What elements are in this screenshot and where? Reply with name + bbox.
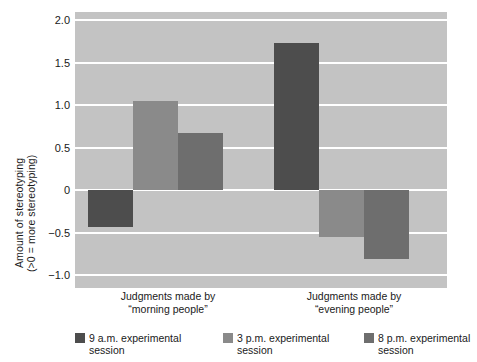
- gridline: [75, 62, 447, 64]
- legend-label-line-1: 8 p.m. experimental: [378, 332, 470, 344]
- y-axis-tick-labels: 2.01.51.00.50−0.5−1.0: [34, 0, 74, 300]
- gridline: [75, 19, 447, 21]
- chart-legend: 9 a.m. experimentalsession3 p.m. experim…: [75, 332, 475, 362]
- bar: [319, 190, 364, 237]
- legend-label-line-2: session: [237, 344, 329, 356]
- bar: [178, 133, 223, 191]
- category-label-line-1: Judgments made by: [121, 290, 216, 302]
- y-axis-title: Amount of stereotyping (>0 = more stereo…: [0, 0, 34, 300]
- bar: [133, 101, 178, 190]
- y-axis-tick-label: 2.0: [55, 14, 70, 26]
- y-axis-tick-label: 1.0: [55, 99, 70, 111]
- plot-area: [75, 12, 447, 288]
- legend-label: 3 p.m. experimentalsession: [237, 332, 329, 356]
- legend-label-line-1: 9 a.m. experimental: [89, 332, 181, 344]
- legend-label: 8 p.m. experimentalsession: [378, 332, 470, 356]
- y-axis-tick-label: 1.5: [55, 57, 70, 69]
- category-label-line-1: Judgments made by: [307, 290, 402, 302]
- y-axis-tick-label: −1.0: [48, 269, 70, 281]
- legend-color-swatch: [75, 333, 85, 343]
- bar: [364, 190, 409, 259]
- legend-item: 8 p.m. experimentalsession: [364, 332, 470, 356]
- y-axis-title-line-1: Amount of stereotyping: [13, 158, 25, 268]
- legend-label-line-2: session: [378, 344, 470, 356]
- y-axis-tick-label: 0: [64, 184, 70, 196]
- x-axis-category-label: Judgments made by“morning people”: [75, 290, 261, 316]
- gridline: [75, 104, 447, 106]
- bar-chart-figure: Amount of stereotyping (>0 = more stereo…: [0, 0, 477, 362]
- category-label-line-2: “evening people”: [261, 303, 447, 316]
- legend-item: 9 a.m. experimentalsession: [75, 332, 181, 356]
- y-axis-tick-label: 0.5: [55, 142, 70, 154]
- category-label-line-2: “morning people”: [75, 303, 261, 316]
- legend-label: 9 a.m. experimentalsession: [89, 332, 181, 356]
- legend-label-line-2: session: [89, 344, 181, 356]
- legend-label-line-1: 3 p.m. experimental: [237, 332, 329, 344]
- legend-color-swatch: [364, 333, 374, 343]
- bar: [274, 43, 319, 190]
- legend-color-swatch: [223, 333, 233, 343]
- y-axis-tick-label: −0.5: [48, 227, 70, 239]
- gridline: [75, 274, 447, 276]
- legend-item: 3 p.m. experimentalsession: [223, 332, 329, 356]
- bar: [88, 190, 133, 227]
- gridline: [75, 147, 447, 149]
- x-axis-category-label: Judgments made by“evening people”: [261, 290, 447, 316]
- x-axis-category-labels: Judgments made by“morning people”Judgmen…: [75, 290, 447, 320]
